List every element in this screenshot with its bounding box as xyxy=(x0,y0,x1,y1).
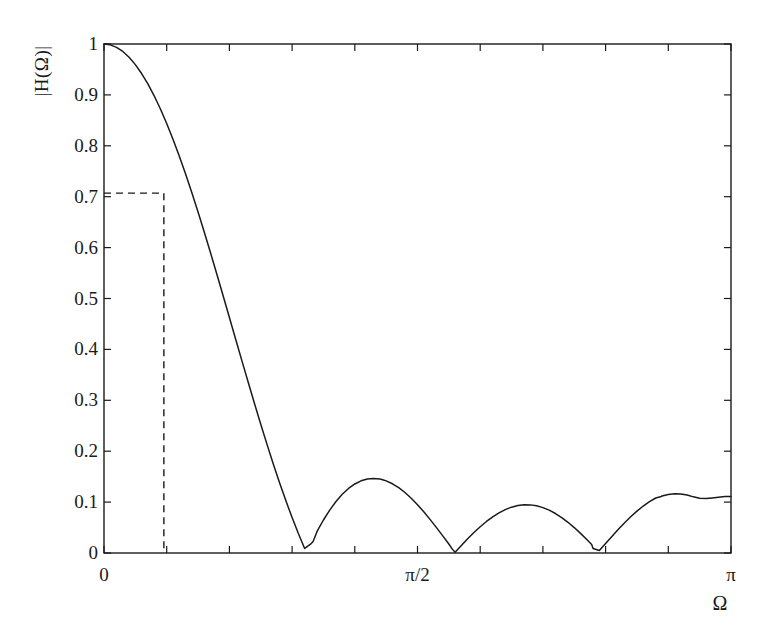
x-tick-label: 0 xyxy=(74,565,134,584)
x-axis-tick-labels: 0π/2π xyxy=(0,0,775,637)
x-tick-label: π xyxy=(701,565,761,584)
figure-panel: |H(Ω)| Ω 00.10.20.30.40.50.60.70.80.91 0… xyxy=(0,0,775,637)
x-tick-label: π/2 xyxy=(388,565,448,584)
